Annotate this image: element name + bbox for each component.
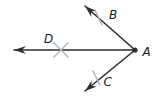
point-A-dot — [132, 47, 137, 52]
label-point-D: D — [44, 32, 53, 46]
label-ray-B: B — [109, 8, 117, 22]
angle-bisector-diagram: A B C D — [0, 0, 156, 101]
label-ray-C: C — [104, 75, 113, 89]
diagram-svg: A B C D — [0, 0, 156, 101]
label-vertex-A: A — [142, 45, 151, 59]
arc-tick-on-AB-icon — [95, 10, 102, 25]
